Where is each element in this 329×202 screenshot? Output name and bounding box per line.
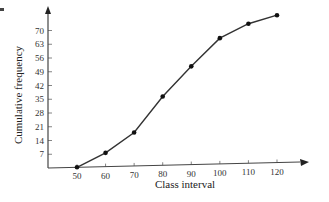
data-points [75,13,280,170]
data-point [246,21,251,26]
data-point [160,94,165,99]
data-point [189,64,194,69]
y-tick-label: 21 [35,122,44,132]
x-tick-label: 50 [73,171,83,181]
y-tick-label: 70 [35,26,45,36]
x-tick-label: 60 [101,171,111,181]
y-tick-label: 28 [35,108,45,118]
x-tick-label: 100 [213,168,227,178]
y-axis-arrow-icon [45,6,51,14]
y-tick-label: 63 [35,39,45,49]
y-tick-label: 7 [40,149,45,159]
x-axis-title: Class interval [155,178,215,190]
ogive-chart: 7142128354249566370 5060708090100110120 … [0,0,329,202]
y-tick-label: 42 [35,81,44,91]
x-tick-label: 110 [242,167,256,177]
data-point [275,13,280,18]
data-point [75,165,80,170]
ogive-line [77,15,277,167]
x-tick-label: 120 [270,167,284,177]
y-axis-title: Cumulative frequency [12,45,24,144]
data-point [218,36,223,41]
data-point [132,130,137,135]
data-point [103,151,108,156]
x-tick-label: 70 [130,170,140,180]
y-tick-label: 14 [35,136,45,146]
y-axis-ticks: 7142128354249566370 [35,26,52,160]
y-tick-label: 56 [35,53,45,63]
x-axis-arrow-icon [300,159,309,166]
y-tick-label: 49 [35,67,45,77]
y-tick-label: 35 [35,94,45,104]
